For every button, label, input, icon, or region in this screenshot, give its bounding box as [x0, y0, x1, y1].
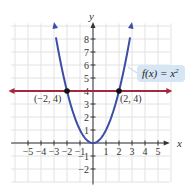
x-tick-label: 1 [104, 146, 109, 157]
x-tick-label: −4 [36, 146, 47, 157]
x-tick-label: −3 [49, 146, 60, 157]
y-tick-label: 3 [84, 99, 89, 110]
y-axis-label: y [88, 10, 94, 22]
y-tick-label: 6 [84, 60, 89, 71]
y-tick-label: 8 [84, 34, 89, 45]
y-tick-label: 5 [84, 73, 89, 84]
y-tick-label: 7 [84, 47, 89, 58]
x-axis-label: x [176, 137, 182, 149]
y-axis-arrow-icon [91, 22, 96, 28]
x-tick-label: 2 [117, 146, 122, 157]
x-tick-label: −5 [23, 146, 34, 157]
function-label: f(x) = x2 [128, 65, 185, 82]
x-tick-label: 3 [130, 146, 135, 157]
x-axis-arrow-icon [164, 141, 170, 146]
y-tick-label: −2 [78, 164, 89, 175]
point-label-left: (−2, 4) [34, 93, 61, 105]
function-label-exponent: 2 [175, 67, 179, 75]
y-tick-label: 2 [84, 112, 89, 123]
series [9, 22, 173, 143]
y-tick-label: 1 [84, 125, 89, 136]
x-tick-label: −2 [62, 146, 73, 157]
x-tick-label: 4 [143, 146, 148, 157]
y-tick-label: −1 [78, 151, 89, 162]
chart-container: −5−4−3−2−112345−2−112345678 y x f(x) = x… [0, 0, 191, 195]
chart-svg: −5−4−3−2−112345−2−112345678 y x f(x) = x… [0, 0, 191, 195]
line-arrow-left-icon [9, 88, 15, 94]
point-label-right: (2, 4) [120, 93, 142, 105]
x-tick-label: 5 [156, 146, 161, 157]
svg-text:f(x) = x2: f(x) = x2 [142, 67, 179, 80]
intersection-point [64, 88, 70, 94]
function-label-text: f(x) = x [142, 67, 175, 80]
